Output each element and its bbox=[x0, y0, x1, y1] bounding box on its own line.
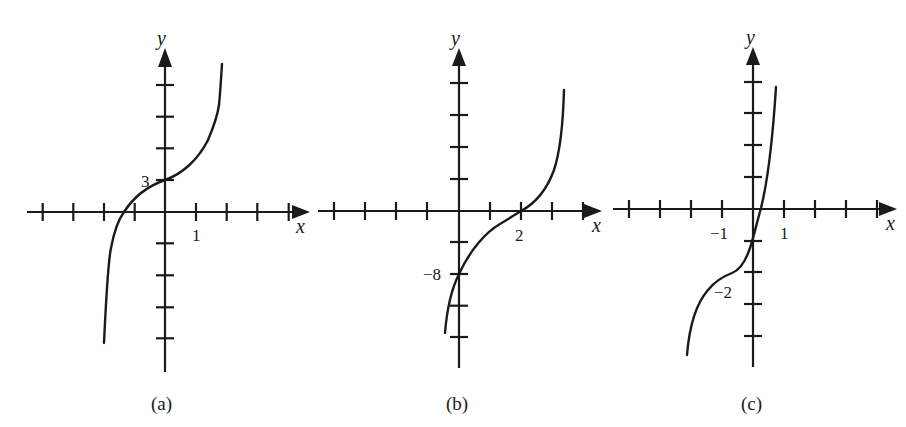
figure-three-graphs: y x 3 1 (a) bbox=[0, 0, 906, 427]
x-axis-label: x bbox=[885, 212, 895, 234]
panel-c: y x −1 1 −2 (c) bbox=[613, 26, 897, 415]
panel-b: y x 2 −8 (b) bbox=[318, 27, 602, 415]
tick-label-x-neg1: −1 bbox=[710, 224, 728, 243]
y-axis-label: y bbox=[744, 26, 755, 49]
caption-c: (c) bbox=[741, 393, 762, 415]
tick-label-y-3: 3 bbox=[141, 172, 150, 191]
y-axis-arrow-icon bbox=[452, 48, 466, 66]
caption-b: (b) bbox=[446, 393, 468, 415]
curve-label-neg2: −2 bbox=[714, 283, 732, 302]
y-axis-label: y bbox=[155, 27, 166, 50]
tick-label-x-1: 1 bbox=[780, 224, 789, 243]
panel-a: y x 3 1 (a) bbox=[27, 27, 310, 415]
x-axis bbox=[613, 202, 897, 216]
x-axis bbox=[27, 205, 310, 219]
y-axis-label: y bbox=[449, 27, 460, 50]
y-axis bbox=[452, 48, 466, 368]
y-axis-arrow-icon bbox=[746, 47, 760, 65]
x-axis-label: x bbox=[591, 214, 601, 236]
caption-a: (a) bbox=[151, 393, 172, 415]
y-axis bbox=[746, 47, 760, 367]
y-axis-arrow-icon bbox=[158, 48, 172, 67]
curve-a bbox=[104, 64, 222, 343]
tick-label-x-2: 2 bbox=[515, 226, 524, 245]
x-axis-label: x bbox=[295, 215, 305, 237]
tick-label-y-neg8: −8 bbox=[423, 265, 441, 284]
tick-label-x-1: 1 bbox=[192, 226, 201, 245]
curve-c bbox=[687, 87, 776, 355]
y-axis bbox=[158, 48, 172, 372]
